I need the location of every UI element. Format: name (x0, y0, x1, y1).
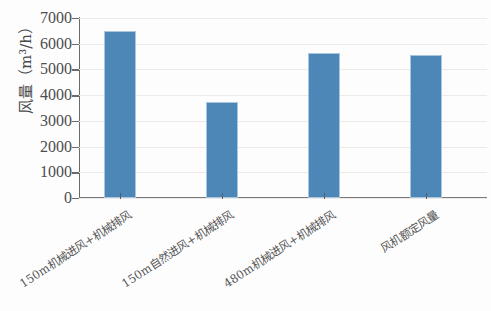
x-axis-tick-mark (426, 193, 427, 199)
y-axis-tick-mark (72, 69, 79, 70)
x-axis-tick-label: 风机额定风量 (377, 206, 441, 255)
y-axis-tick-mark (72, 172, 79, 173)
y-axis-tick-mark (72, 147, 79, 148)
x-axis-tick-labels: 150m机械进风+机械排风150m自然进风+机械排风480m机械进风+机械排风风… (0, 0, 491, 311)
y-axis-tick-mark (72, 95, 79, 96)
x-axis-tick-mark (222, 193, 223, 199)
chart-figure: 风量（m³/h） 70006000500040003000200010000 1… (0, 0, 491, 311)
x-axis-tick-label: 480m机械进风+机械排风 (220, 206, 338, 290)
y-axis-tick-mark (72, 18, 79, 19)
x-axis-tick-label: 150m机械进风+机械排风 (16, 206, 134, 290)
y-axis-tick-mark (72, 44, 79, 45)
x-axis-tick-mark (120, 193, 121, 199)
y-axis-tick-mark (72, 121, 79, 122)
y-axis-tick-mark (72, 198, 79, 199)
x-axis-tick-mark (324, 193, 325, 199)
x-axis-tick-label: 150m自然进风+机械排风 (118, 206, 236, 290)
